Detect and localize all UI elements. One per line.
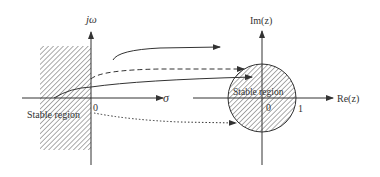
s-origin-label: 0 <box>93 102 98 113</box>
s-to-z-mapping-diagram: jω σ 0 Stable region Im(z) Re(z) 0 1 Sta… <box>0 0 380 177</box>
sigma-label: σ <box>163 91 170 105</box>
unit-label: 1 <box>298 103 303 114</box>
s-stable-region-label: Stable region <box>27 109 80 120</box>
jomega-label: jω <box>84 13 97 25</box>
s-plane: jω σ 0 Stable region <box>22 13 170 165</box>
re-z-label: Re(z) <box>337 93 359 105</box>
im-z-label: Im(z) <box>250 15 272 27</box>
z-stable-region-label: Stable region <box>233 87 284 97</box>
mapping-arrow-dotted <box>94 113 236 123</box>
z-origin-label: 0 <box>266 102 271 113</box>
mapping-arrow-top-solid <box>113 47 220 60</box>
z-plane: Im(z) Re(z) 0 1 Stable region <box>193 15 359 165</box>
